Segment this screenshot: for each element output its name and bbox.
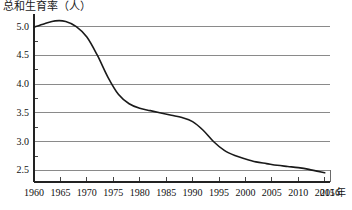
x-tick-label: 2010 <box>286 188 310 198</box>
y-tick-label: 3.5 <box>3 108 29 118</box>
gridlines-group <box>34 27 330 171</box>
x-tick-label: 1980 <box>128 188 152 198</box>
axis-frame <box>34 14 330 182</box>
x-ticks-group <box>34 177 330 182</box>
x-tick-label: 1985 <box>154 188 178 198</box>
x-tick-label: 1975 <box>101 188 125 198</box>
x-tick-label: 1995 <box>207 188 231 198</box>
y-tick-label: 3.0 <box>3 137 29 147</box>
data-series-group <box>34 21 325 173</box>
y-tick-label: 4.5 <box>3 50 29 60</box>
y-tick-label: 5.0 <box>3 22 29 32</box>
x-tick-label: 1990 <box>181 188 205 198</box>
y-tick-label: 2.5 <box>3 165 29 175</box>
x-tick-label: 1965 <box>48 188 72 198</box>
chart-container: 总和生育率（人） 5.04.54.03.53.02.5 196019651970… <box>0 0 352 210</box>
x-tick-label: 2005 <box>260 188 284 198</box>
x-axis-unit-label: 年 <box>336 188 346 198</box>
x-tick-label: 1960 <box>22 188 46 198</box>
y-tick-label: 4.0 <box>3 79 29 89</box>
x-tick-label: 2000 <box>233 188 257 198</box>
series-line-0 <box>34 21 325 173</box>
x-tick-label: 1970 <box>75 188 99 198</box>
chart-plot-area <box>0 0 352 210</box>
